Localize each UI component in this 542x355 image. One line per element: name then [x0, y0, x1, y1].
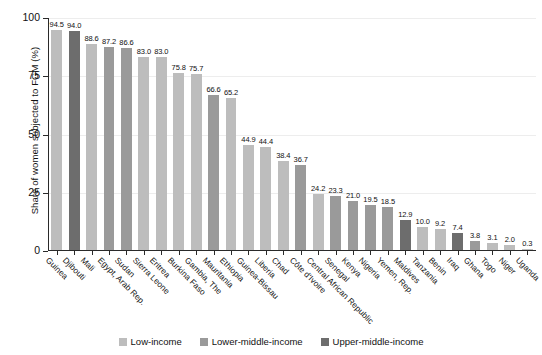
bar-value-label: 36.7 [294, 155, 308, 164]
bar-rect [382, 207, 393, 250]
chart-legend: Low-incomeLower-middle-incomeUpper-middl… [0, 336, 542, 347]
bar-rect [365, 205, 376, 250]
bar[interactable]: 7.4 [452, 233, 463, 250]
bar-value-label: 75.7 [189, 64, 203, 73]
bar[interactable]: 75.8 [173, 73, 184, 250]
bar[interactable]: 38.4 [278, 161, 289, 250]
bar[interactable]: 36.7 [295, 165, 306, 251]
bar-rect [86, 44, 97, 250]
bar-value-label: 65.2 [224, 88, 238, 97]
legend-item[interactable]: Upper-middle-income [321, 336, 424, 347]
bar-rect [138, 57, 149, 250]
bar[interactable]: 3.1 [487, 243, 498, 250]
bar[interactable]: 88.6 [86, 44, 97, 250]
bar[interactable]: 65.2 [226, 98, 237, 250]
bar-rect [208, 95, 219, 250]
bar[interactable]: 18.5 [382, 207, 393, 250]
y-tick-label: 0 [4, 244, 40, 256]
bar[interactable]: 9.2 [435, 229, 446, 250]
bar-rect [51, 30, 62, 250]
bar-value-label: 83.0 [154, 47, 168, 56]
bar[interactable]: 75.7 [191, 74, 202, 250]
legend-swatch-icon [119, 338, 127, 346]
bar-rect [400, 220, 411, 250]
y-tick-label: 75 [4, 69, 40, 81]
bar-series: 94.594.088.687.286.683.083.075.875.766.6… [48, 18, 536, 250]
legend-item[interactable]: Low-income [119, 336, 182, 347]
bar-rect [69, 31, 80, 250]
bar-rect [121, 48, 132, 250]
bar[interactable]: 24.2 [313, 194, 324, 250]
bar-rect [243, 145, 254, 250]
y-tick-label: 100 [4, 11, 40, 23]
bar[interactable]: 19.5 [365, 205, 376, 250]
bar-value-label: 0.3 [522, 239, 532, 248]
bar-rect [104, 47, 115, 250]
bar-rect [487, 243, 498, 250]
bar-rect [504, 245, 515, 250]
bar-value-label: 2.0 [505, 235, 515, 244]
bar-rect [470, 241, 481, 250]
bar-rect [522, 249, 533, 250]
bar[interactable]: 0.3 [522, 249, 533, 250]
bar[interactable]: 21.0 [348, 201, 359, 250]
bar-rect [295, 165, 306, 251]
legend-label: Low-income [131, 336, 182, 347]
fgm-bar-chart: Share of women subjected to FGM (%) 0255… [0, 0, 542, 355]
bar-value-label: 87.2 [102, 37, 116, 46]
bar-value-label: 23.3 [328, 186, 342, 195]
bar-rect [226, 98, 237, 250]
bar[interactable]: 83.0 [156, 57, 167, 250]
bar[interactable]: 3.8 [470, 241, 481, 250]
bar-value-label: 19.5 [363, 195, 377, 204]
bar[interactable]: 66.6 [208, 95, 219, 250]
bar-value-label: 12.9 [398, 210, 412, 219]
bar-value-label: 66.6 [206, 85, 220, 94]
bar[interactable]: 87.2 [104, 47, 115, 250]
bar-value-label: 10.0 [416, 217, 430, 226]
bar-value-label: 94.0 [67, 21, 81, 30]
bar[interactable]: 23.3 [330, 196, 341, 250]
bar-value-label: 24.2 [311, 184, 325, 193]
legend-swatch-icon [321, 338, 329, 346]
bar-rect [156, 57, 167, 250]
bar[interactable]: 44.4 [260, 147, 271, 250]
bar-value-label: 75.8 [172, 63, 186, 72]
bar-value-label: 21.0 [346, 191, 360, 200]
bar-rect [452, 233, 463, 250]
bar-value-label: 44.4 [259, 137, 273, 146]
bar[interactable]: 2.0 [504, 245, 515, 250]
bar[interactable]: 94.0 [69, 31, 80, 250]
legend-item[interactable]: Lower-middle-income [200, 336, 303, 347]
bar-value-label: 83.0 [137, 47, 151, 56]
plot-area: 0255075100 94.594.088.687.286.683.083.07… [48, 18, 536, 251]
bar-value-label: 7.4 [452, 223, 462, 232]
legend-label: Lower-middle-income [212, 336, 303, 347]
bar[interactable]: 44.9 [243, 145, 254, 250]
bar[interactable]: 94.5 [51, 30, 62, 250]
y-tick-label: 25 [4, 186, 40, 198]
bar[interactable]: 86.6 [121, 48, 132, 250]
bar-rect [348, 201, 359, 250]
bar-value-label: 44.9 [241, 135, 255, 144]
y-tick-label: 50 [4, 128, 40, 140]
bar-rect [173, 73, 184, 250]
legend-swatch-icon [200, 338, 208, 346]
bar[interactable]: 12.9 [400, 220, 411, 250]
bar-value-label: 86.6 [119, 38, 133, 47]
bar-rect [260, 147, 271, 250]
bar-value-label: 9.2 [435, 219, 445, 228]
x-tick-label: Niger [497, 255, 518, 276]
legend-label: Upper-middle-income [333, 336, 424, 347]
bar-rect [330, 196, 341, 250]
bar-value-label: 18.5 [381, 197, 395, 206]
bar-rect [313, 194, 324, 250]
bar[interactable]: 10.0 [417, 227, 428, 250]
bar-value-label: 3.8 [470, 231, 480, 240]
bar-value-label: 88.6 [84, 34, 98, 43]
bar-rect [278, 161, 289, 250]
bar-value-label: 38.4 [276, 151, 290, 160]
bar-rect [417, 227, 428, 250]
bar-rect [435, 229, 446, 250]
bar[interactable]: 83.0 [138, 57, 149, 250]
